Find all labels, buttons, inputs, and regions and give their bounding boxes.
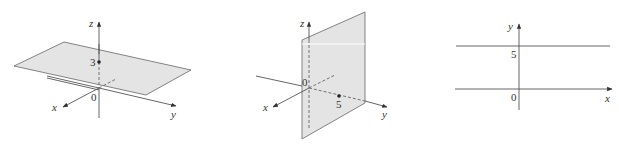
z-label: z: [299, 17, 305, 29]
y-axis: [365, 101, 387, 107]
y-axis-negative: [256, 76, 302, 86]
origin-label: 0: [511, 91, 517, 103]
origin-label: 0: [302, 76, 308, 88]
figure-canvas: z x y 3 0 z x y 5 0 y x 5 0: [0, 0, 619, 150]
y-label: y: [381, 108, 387, 120]
panel-3-line-y5: y x 5 0: [455, 20, 612, 110]
origin-label: 0: [91, 91, 97, 103]
point-label: 5: [336, 98, 342, 110]
point-3: [97, 60, 101, 64]
panel-1-plane-z3: z x y 3 0: [14, 17, 191, 120]
x-label: x: [51, 101, 57, 113]
point-label: 5: [511, 48, 517, 60]
x-label: x: [262, 101, 268, 113]
z-label: z: [88, 17, 94, 29]
panel-2-plane-y5: z x y 5 0: [256, 12, 387, 139]
x-label: x: [604, 92, 610, 104]
y-label: y: [170, 108, 176, 120]
point-label: 3: [90, 56, 96, 68]
plane-z3: [14, 42, 191, 95]
y-label: y: [507, 20, 513, 32]
